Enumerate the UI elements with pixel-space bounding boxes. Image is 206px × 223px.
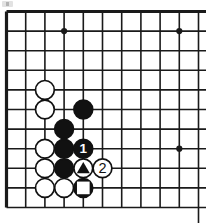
go-board[interactable]: 12 xyxy=(0,0,206,223)
stone-body xyxy=(55,159,74,178)
white-stone[interactable] xyxy=(55,179,74,198)
scan-artifact xyxy=(2,1,13,7)
stone-body xyxy=(36,159,55,178)
white-stone[interactable] xyxy=(36,179,55,198)
black-stone[interactable] xyxy=(74,179,93,198)
star-point xyxy=(176,146,182,152)
black-stone[interactable]: 1 xyxy=(74,139,93,158)
square-marker-icon xyxy=(77,182,90,195)
black-stone[interactable] xyxy=(55,159,74,178)
stone-move-number: 1 xyxy=(80,141,88,156)
stone-body xyxy=(36,81,55,100)
black-stone[interactable] xyxy=(74,100,93,119)
black-stone[interactable] xyxy=(55,120,74,139)
stone-body xyxy=(55,139,74,158)
white-stone[interactable] xyxy=(36,139,55,158)
stone-body xyxy=(36,100,55,119)
stone-body xyxy=(55,179,74,198)
white-stone[interactable] xyxy=(36,100,55,119)
go-diagram: 12 xyxy=(0,0,206,223)
stone-body xyxy=(36,179,55,198)
stone-body xyxy=(36,139,55,158)
star-point xyxy=(176,28,182,34)
white-stone[interactable] xyxy=(36,81,55,100)
white-stone[interactable]: 2 xyxy=(93,159,112,178)
stone-body xyxy=(74,100,93,119)
stone-move-number: 2 xyxy=(98,160,106,176)
stone-body xyxy=(55,120,74,139)
black-stone[interactable] xyxy=(55,139,74,158)
star-point xyxy=(61,28,67,34)
white-stone[interactable] xyxy=(74,159,93,178)
white-stone[interactable] xyxy=(36,159,55,178)
